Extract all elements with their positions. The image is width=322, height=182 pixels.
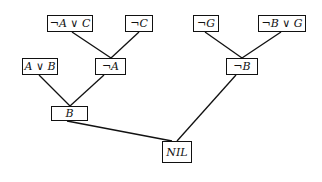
- edge-AorB-to-B: [39, 75, 70, 106]
- edge-notB-to-NIL: [177, 75, 236, 141]
- node-notA-or-C: ¬A ∨ C: [47, 15, 93, 32]
- node-A-or-B: A ∨ B: [22, 58, 58, 75]
- node-label: ¬A: [102, 61, 119, 72]
- node-B: B: [51, 106, 88, 121]
- node-notG: ¬G: [193, 15, 219, 32]
- node-label: ¬C: [130, 18, 148, 29]
- node-notB-or-G: ¬B ∨ G: [258, 15, 306, 32]
- node-label: ¬B: [233, 61, 250, 72]
- edge-notG-to-notB: [205, 32, 242, 58]
- edge-notA-to-B: [70, 75, 104, 106]
- node-label: ¬A ∨ C: [50, 18, 91, 29]
- edge-B-to-NIL: [67, 121, 172, 141]
- edge-notC-to-notA: [111, 32, 139, 58]
- node-NIL: NIL: [162, 141, 192, 163]
- node-label: A ∨ B: [24, 61, 55, 72]
- edge-notAorC-to-notA: [72, 32, 111, 58]
- node-notA: ¬A: [95, 58, 126, 75]
- node-label: ¬G: [197, 18, 215, 29]
- node-notC: ¬C: [125, 15, 153, 32]
- node-label: B: [65, 108, 73, 119]
- edge-notBorG-to-notB: [242, 32, 281, 58]
- node-label: NIL: [166, 147, 187, 158]
- node-notB: ¬B: [226, 58, 258, 75]
- node-label: ¬B ∨ G: [261, 18, 302, 29]
